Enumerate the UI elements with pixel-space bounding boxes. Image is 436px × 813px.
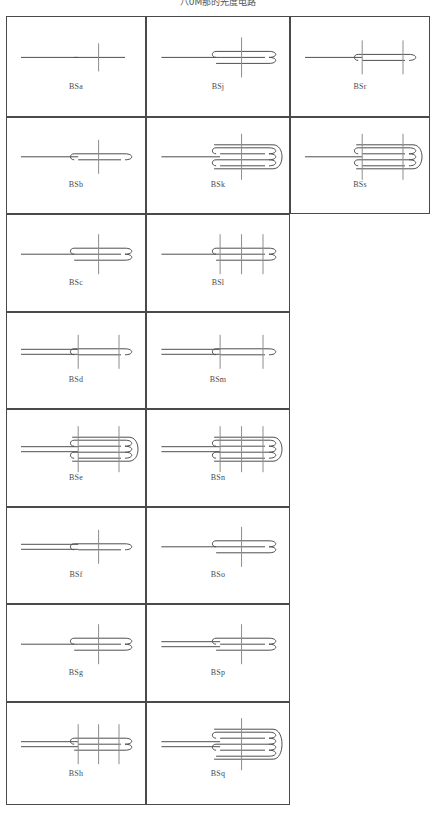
diagram-cell-bsn[interactable]: BSn — [146, 409, 290, 507]
diagram-figure-bsd — [7, 313, 145, 408]
diagram-label: BSr — [291, 82, 429, 91]
diagram-label: BSo — [147, 570, 289, 579]
diagram-cell-bsd[interactable]: BSd — [6, 312, 146, 409]
diagram-figure-bss — [291, 118, 429, 213]
page-title: 八0M那的光度电路 — [0, 0, 436, 8]
diagram-figure-bsl — [147, 215, 289, 311]
diagram-figure-bsh — [7, 703, 145, 804]
diagram-figure-bsm — [147, 313, 289, 408]
diagram-figure-bsp — [147, 605, 289, 701]
diagram-grid: BSaBSjBSrBSbBSkBSsBScBSlBSdBSmBSeBSnBSfB… — [6, 16, 430, 805]
diagram-label: BSl — [147, 278, 289, 287]
diagram-label: BSf — [7, 570, 145, 579]
diagram-cell-bss[interactable]: BSs — [290, 117, 430, 214]
diagram-cell-bsg[interactable]: BSg — [6, 604, 146, 702]
diagram-cell-bsl[interactable]: BSl — [146, 214, 290, 312]
diagram-figure-bsr — [291, 17, 429, 116]
diagram-label: BSn — [147, 473, 289, 482]
diagram-label: BSa — [7, 82, 145, 91]
diagram-figure-bsg — [7, 605, 145, 701]
diagram-label: BSs — [291, 180, 429, 189]
diagram-label: BSp — [147, 668, 289, 677]
diagram-label: BSb — [7, 180, 145, 189]
diagram-label: BSg — [7, 668, 145, 677]
diagram-cell-bsh[interactable]: BSh — [6, 702, 146, 805]
diagram-cell-bsq[interactable]: BSq — [146, 702, 290, 805]
diagram-label: BSq — [147, 769, 289, 778]
diagram-label: BSk — [147, 180, 289, 189]
diagram-figure-bsq — [147, 703, 289, 804]
diagram-page: 八0M那的光度电路 BSaBSjBSrBSbBSkBSsBScBSlBSdBSm… — [0, 0, 436, 813]
diagram-cell-bsb[interactable]: BSb — [6, 117, 146, 214]
diagram-label: BSc — [7, 278, 145, 287]
diagram-label: BSj — [147, 82, 289, 91]
diagram-figure-bso — [147, 508, 289, 603]
diagram-cell-bsm[interactable]: BSm — [146, 312, 290, 409]
diagram-cell-bse[interactable]: BSe — [6, 409, 146, 507]
diagram-figure-bsj — [147, 17, 289, 116]
diagram-cell-bso[interactable]: BSo — [146, 507, 290, 604]
diagram-cell-bsc[interactable]: BSc — [6, 214, 146, 312]
diagram-figure-bsk — [147, 118, 289, 213]
diagram-cell-bsk[interactable]: BSk — [146, 117, 290, 214]
diagram-label: BSm — [147, 375, 289, 384]
diagram-figure-bsn — [147, 410, 289, 506]
diagram-cell-bsf[interactable]: BSf — [6, 507, 146, 604]
diagram-label: BSe — [7, 473, 145, 482]
diagram-figure-bsf — [7, 508, 145, 603]
diagram-figure-bse — [7, 410, 145, 506]
diagram-figure-bsc — [7, 215, 145, 311]
diagram-figure-bsa — [7, 17, 145, 116]
diagram-cell-bsr[interactable]: BSr — [290, 16, 430, 117]
diagram-label: BSd — [7, 375, 145, 384]
diagram-cell-bsa[interactable]: BSa — [6, 16, 146, 117]
diagram-label: BSh — [7, 769, 145, 778]
diagram-cell-bsj[interactable]: BSj — [146, 16, 290, 117]
diagram-cell-bsp[interactable]: BSp — [146, 604, 290, 702]
diagram-figure-bsb — [7, 118, 145, 213]
